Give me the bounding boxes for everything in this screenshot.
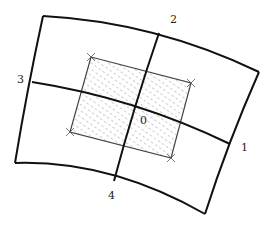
label-center: 0 xyxy=(140,114,147,127)
label-top: 2 xyxy=(170,13,177,26)
top-edge xyxy=(43,16,259,72)
label-right: 1 xyxy=(241,141,248,154)
finite-volume-diagram: 0 1 2 3 4 xyxy=(0,0,271,225)
hatched-control-volume xyxy=(70,57,191,158)
left-edge xyxy=(15,16,43,163)
label-bottom: 4 xyxy=(108,189,115,202)
label-left: 3 xyxy=(17,73,24,86)
right-edge xyxy=(205,72,259,214)
